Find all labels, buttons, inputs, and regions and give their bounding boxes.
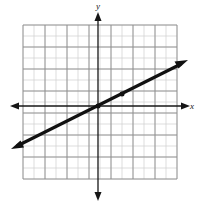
coordinate-plane-svg: x y bbox=[0, 0, 202, 205]
x-axis-right-arrow-icon bbox=[181, 103, 190, 110]
x-axis-label: x bbox=[189, 101, 194, 111]
y-axis-label: y bbox=[95, 1, 100, 11]
graph-figure: x y bbox=[0, 0, 202, 205]
plotted-point-origin bbox=[96, 104, 101, 109]
y-axis-bottom-arrow-icon bbox=[95, 192, 102, 201]
grid-minor-lines bbox=[23, 25, 177, 179]
plotted-point-second bbox=[120, 92, 125, 97]
y-axis-top-arrow-icon bbox=[95, 12, 102, 21]
x-axis-left-arrow-icon bbox=[10, 103, 19, 110]
